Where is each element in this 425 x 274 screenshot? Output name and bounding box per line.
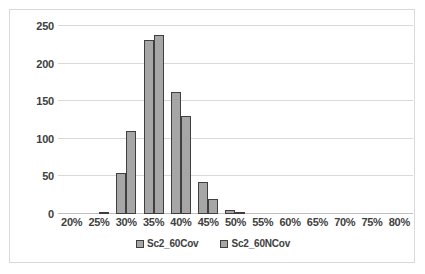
bar: [126, 131, 136, 214]
y-axis-tick-label: 100: [36, 133, 54, 145]
x-axis-labels: 20%25%30%35%40%45%50%55%60%65%70%75%80%: [58, 216, 413, 234]
legend-swatch-icon: [136, 240, 144, 248]
x-axis-tick-label: 45%: [198, 216, 219, 228]
bar-group: [249, 26, 276, 214]
bar: [181, 116, 191, 215]
bar-group: [276, 26, 303, 214]
legend-item[interactable]: Sc2_60NCov: [220, 238, 290, 249]
x-axis-tick-label: 60%: [280, 216, 301, 228]
x-axis-tick-label: 75%: [361, 216, 382, 228]
bar-group: [113, 26, 140, 214]
bar: [208, 199, 218, 214]
x-axis-tick-label: 40%: [170, 216, 191, 228]
bar-group: [85, 26, 112, 214]
bar-group: [304, 26, 331, 214]
bar-group: [386, 26, 413, 214]
x-axis-tick-label: 35%: [143, 216, 164, 228]
bar: [198, 182, 208, 214]
legend-item[interactable]: Sc2_60Cov: [136, 238, 199, 249]
bar: [154, 35, 164, 214]
x-axis-tick-label: 25%: [88, 216, 109, 228]
bar-group: [167, 26, 194, 214]
y-axis-labels: 050100150200250: [20, 26, 54, 214]
bar: [171, 92, 181, 214]
bar: [116, 173, 126, 214]
x-axis-tick-label: 65%: [307, 216, 328, 228]
chart-container: 050100150200250 20%25%30%35%40%45%50%55%…: [0, 0, 425, 274]
bar: [144, 40, 154, 214]
bar-group: [140, 26, 167, 214]
bar: [225, 210, 235, 215]
y-axis-tick-label: 0: [48, 208, 54, 220]
y-axis-tick-label: 250: [36, 20, 54, 32]
chart-frame: 050100150200250 20%25%30%35%40%45%50%55%…: [9, 9, 415, 263]
bar-group: [222, 26, 249, 214]
bar-group: [331, 26, 358, 214]
y-axis-tick-label: 50: [42, 170, 54, 182]
bars-layer: [58, 26, 413, 214]
bar-group: [58, 26, 85, 214]
legend-swatch-icon: [220, 240, 228, 248]
bar-group: [195, 26, 222, 214]
chart-legend: Sc2_60CovSc2_60NCov: [10, 238, 416, 249]
x-axis-tick-label: 55%: [252, 216, 273, 228]
bar-group: [358, 26, 385, 214]
bar: [235, 212, 245, 214]
legend-label: Sc2_60NCov: [231, 238, 290, 249]
plot-area: [58, 26, 413, 214]
y-axis-tick-label: 150: [36, 95, 54, 107]
bar: [99, 212, 109, 214]
y-axis-tick-label: 200: [36, 58, 54, 70]
x-axis-tick-label: 70%: [334, 216, 355, 228]
x-axis-tick-label: 50%: [225, 216, 246, 228]
legend-label: Sc2_60Cov: [147, 238, 199, 249]
x-axis-tick-label: 80%: [389, 216, 410, 228]
x-axis-tick-label: 30%: [116, 216, 137, 228]
x-axis-tick-label: 20%: [61, 216, 82, 228]
